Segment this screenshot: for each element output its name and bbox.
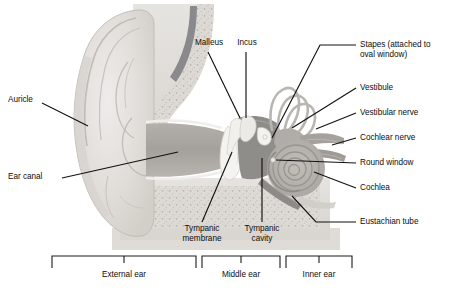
ear-canal-group	[146, 121, 230, 179]
ear-anatomy-figure: Auricle Ear canal Malleus Incus Stapes (…	[0, 0, 450, 289]
round-window	[271, 158, 276, 163]
label-cochlear-nerve: Cochlear nerve	[360, 133, 415, 143]
label-eustachian-tube: Eustachian tube	[360, 217, 418, 227]
label-round-window: Round window	[360, 158, 413, 168]
label-ear-canal: Ear canal	[8, 172, 42, 182]
leader-malleus	[208, 52, 240, 118]
label-cochlea: Cochlea	[360, 183, 390, 193]
label-stapes-line1: Stapes (attached to	[360, 40, 431, 50]
label-tympanic-cavity-line2: cavity	[228, 234, 296, 244]
label-vestibule: Vestibule	[360, 83, 393, 93]
cochlea-group	[267, 139, 325, 197]
section-label-inner-ear: Inner ear	[291, 270, 347, 279]
label-incus: Incus	[226, 38, 268, 48]
ear-canal-lumen	[146, 123, 230, 177]
leader-vestibule	[292, 88, 356, 128]
label-auricle: Auricle	[8, 95, 33, 105]
label-stapes-line2: oval window)	[360, 50, 407, 60]
label-tympanic-cavity-line1: Tympanic	[228, 224, 296, 234]
cochlea-body	[267, 139, 325, 197]
auricle-group	[74, 10, 154, 236]
section-label-middle-ear: Middle ear	[211, 270, 271, 279]
leader-vestibular-nerve	[316, 113, 356, 129]
label-vestibular-nerve: Vestibular nerve	[360, 108, 418, 118]
section-label-external-ear: External ear	[84, 270, 164, 279]
auricle-outline	[74, 10, 154, 236]
section-brackets	[52, 256, 352, 268]
